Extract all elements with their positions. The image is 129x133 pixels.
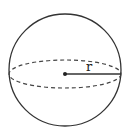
radius-label: r xyxy=(86,59,93,74)
sphere-outline xyxy=(9,14,121,126)
sphere-diagram: r xyxy=(0,0,129,133)
center-point xyxy=(63,72,67,76)
